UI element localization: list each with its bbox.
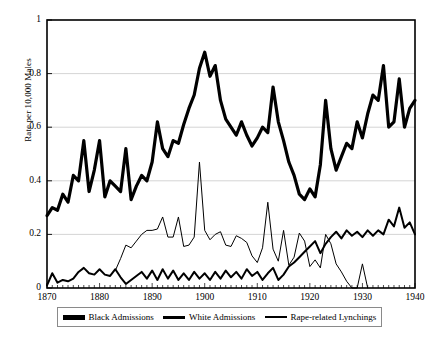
y-axis-tick-label: 0.4: [11, 175, 41, 185]
plot-area: [0, 0, 438, 340]
y-axis-tick-label: 0.6: [11, 121, 41, 131]
y-axis-tick-label: 0.2: [11, 228, 41, 238]
x-axis-tick-label: 1900: [185, 292, 225, 302]
y-axis-tick-label: 1: [11, 14, 41, 24]
x-axis-tick-label: 1890: [132, 292, 172, 302]
x-axis-tick-label: 1910: [237, 292, 277, 302]
x-axis-tick-label: 1940: [395, 292, 435, 302]
x-axis-tick-label: 1930: [342, 292, 382, 302]
x-axis-tick-label: 1870: [27, 292, 67, 302]
chart-container: Rate per 10,000 Males Black Admissions W…: [0, 0, 438, 340]
series-line-black-admissions: [47, 52, 415, 215]
y-axis-tick-label: 0: [11, 282, 41, 292]
y-axis-tick-label: 0.8: [11, 68, 41, 78]
legend-item-rape-related-lynchings: Rape-related Lynchings: [265, 312, 377, 322]
legend-swatch-white-admissions: [163, 316, 185, 319]
x-axis-tick-label: 1880: [80, 292, 120, 302]
legend-swatch-black-admissions: [63, 315, 85, 320]
legend-label-white-admissions: White Admissions: [189, 312, 255, 322]
legend-item-black-admissions: Black Admissions: [63, 312, 154, 322]
legend-swatch-rape-related-lynchings: [265, 316, 287, 317]
legend-item-white-admissions: White Admissions: [163, 312, 255, 322]
legend-label-rape-related-lynchings: Rape-related Lynchings: [291, 312, 377, 322]
chart-legend: Black Admissions White Admissions Rape-r…: [57, 307, 382, 327]
x-axis-tick-label: 1920: [290, 292, 330, 302]
legend-label-black-admissions: Black Admissions: [89, 312, 154, 322]
